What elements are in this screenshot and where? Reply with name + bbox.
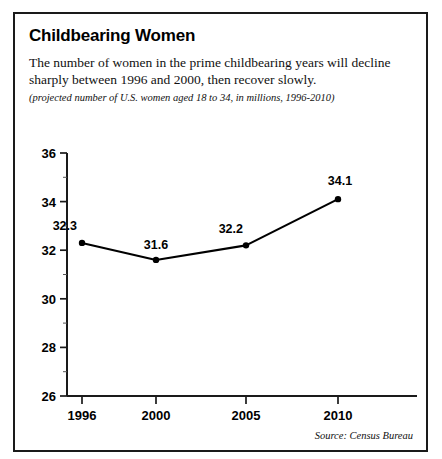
x-axis-tick-label: 2005 [232, 408, 261, 423]
data-point-label: 34.1 [328, 174, 352, 188]
y-axis-tick-label: 26 [42, 389, 56, 404]
x-axis-major-ticks [82, 396, 338, 404]
y-axis-tick-label: 32 [42, 243, 56, 258]
x-axis-tick-label: 2000 [142, 408, 171, 423]
data-point-marker [243, 242, 249, 248]
series-line-path [82, 199, 338, 260]
line-chart: 262830323436 1996200020052010 32.331.632… [15, 14, 426, 450]
data-point-marker [335, 196, 341, 202]
data-point-marker [153, 257, 159, 263]
y-axis-tick-label: 30 [42, 292, 56, 307]
x-axis-tick-label: 2010 [324, 408, 353, 423]
y-axis-tick-label: 28 [42, 340, 56, 355]
y-axis: 262830323436 [42, 146, 67, 404]
y-axis-tick-label: 34 [42, 195, 57, 210]
data-series: 32.331.632.234.1 [53, 174, 353, 263]
series-value-labels: 32.331.632.234.1 [53, 174, 353, 252]
source-note: Source: Census Bureau [315, 430, 413, 441]
data-point-label: 31.6 [144, 238, 168, 252]
data-point-label: 32.2 [219, 222, 243, 236]
chart-canvas: 262830323436 1996200020052010 32.331.632… [15, 14, 426, 450]
y-axis-tick-labels: 262830323436 [42, 146, 57, 404]
series-markers [79, 196, 341, 263]
x-axis-tick-labels: 1996200020052010 [68, 408, 353, 423]
x-axis-tick-label: 1996 [68, 408, 97, 423]
data-point-marker [79, 240, 85, 246]
y-axis-tick-label: 36 [42, 146, 56, 161]
figure-frame: Childbearing Women The number of women i… [13, 12, 428, 452]
x-axis: 1996200020052010 [67, 396, 417, 423]
data-point-label: 32.3 [53, 219, 77, 233]
